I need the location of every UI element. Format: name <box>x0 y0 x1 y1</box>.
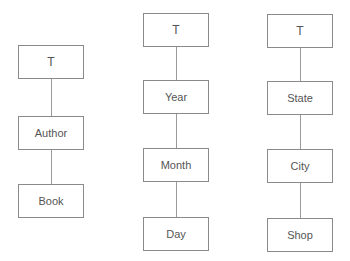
edge <box>51 149 52 184</box>
node-month: Month <box>143 148 209 182</box>
node-root: T <box>18 45 84 79</box>
edge <box>300 115 301 149</box>
node-author: Author <box>18 116 84 150</box>
node-label: T <box>296 24 303 38</box>
node-label: City <box>291 160 310 172</box>
node-root: T <box>143 13 209 47</box>
node-label: State <box>287 92 313 104</box>
node-label: T <box>47 55 54 69</box>
node-city: City <box>267 149 333 183</box>
edge <box>176 182 177 217</box>
node-day: Day <box>143 217 209 251</box>
node-book: Book <box>18 184 84 218</box>
node-label: Day <box>166 228 186 240</box>
node-label: Year <box>165 91 187 103</box>
node-year: Year <box>143 80 209 114</box>
node-label: Book <box>38 195 63 207</box>
edge <box>176 114 177 148</box>
node-label: Author <box>35 127 67 139</box>
node-label: Shop <box>287 229 313 241</box>
edge <box>176 47 177 80</box>
node-label: T <box>172 23 179 37</box>
node-label: Month <box>161 159 192 171</box>
edge <box>300 48 301 81</box>
node-root: T <box>267 14 333 48</box>
node-shop: Shop <box>267 218 333 252</box>
edge <box>51 79 52 117</box>
node-state: State <box>267 81 333 115</box>
edge <box>300 183 301 218</box>
